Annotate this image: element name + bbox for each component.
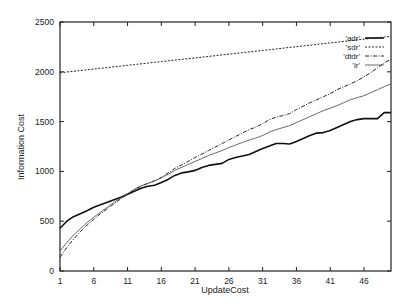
legend-label: 'sdr' bbox=[346, 43, 361, 52]
chart-canvas: 16111621263136414605001000150020002500 '… bbox=[0, 0, 408, 306]
x-tick-label: 11 bbox=[123, 276, 132, 286]
x-tick-label: 41 bbox=[325, 276, 335, 286]
x-axis-label: UpdateCost bbox=[201, 285, 249, 295]
y-tick-label: 2000 bbox=[35, 67, 54, 77]
x-tick-label: 36 bbox=[292, 276, 302, 286]
legend-label: 'adr' bbox=[345, 34, 360, 43]
series-line-adr bbox=[60, 113, 391, 229]
plot-border bbox=[60, 22, 391, 271]
legend-label: 'dtdr' bbox=[343, 52, 360, 61]
legend-label: 'ir' bbox=[353, 61, 361, 70]
x-tick-label: 46 bbox=[359, 276, 369, 286]
axis-ticks: 16111621263136414605001000150020002500 bbox=[35, 17, 391, 286]
y-tick-label: 2500 bbox=[35, 17, 54, 27]
series-line-dtdr bbox=[60, 59, 391, 257]
plot-frame bbox=[60, 22, 391, 271]
x-tick-label: 31 bbox=[258, 276, 268, 286]
y-axis-label: Information Cost bbox=[16, 113, 26, 180]
y-tick-label: 1500 bbox=[35, 117, 54, 127]
y-tick-label: 1000 bbox=[35, 166, 54, 176]
y-tick-label: 0 bbox=[49, 266, 54, 276]
line-chart: 16111621263136414605001000150020002500 '… bbox=[0, 0, 408, 306]
series-line-ir bbox=[60, 84, 391, 251]
x-tick-label: 1 bbox=[58, 276, 63, 286]
x-tick-label: 6 bbox=[91, 276, 96, 286]
x-tick-label: 21 bbox=[190, 276, 200, 286]
y-tick-label: 500 bbox=[40, 216, 54, 226]
x-tick-label: 16 bbox=[157, 276, 167, 286]
series-layer bbox=[60, 36, 391, 257]
series-line-sdr bbox=[60, 36, 391, 72]
